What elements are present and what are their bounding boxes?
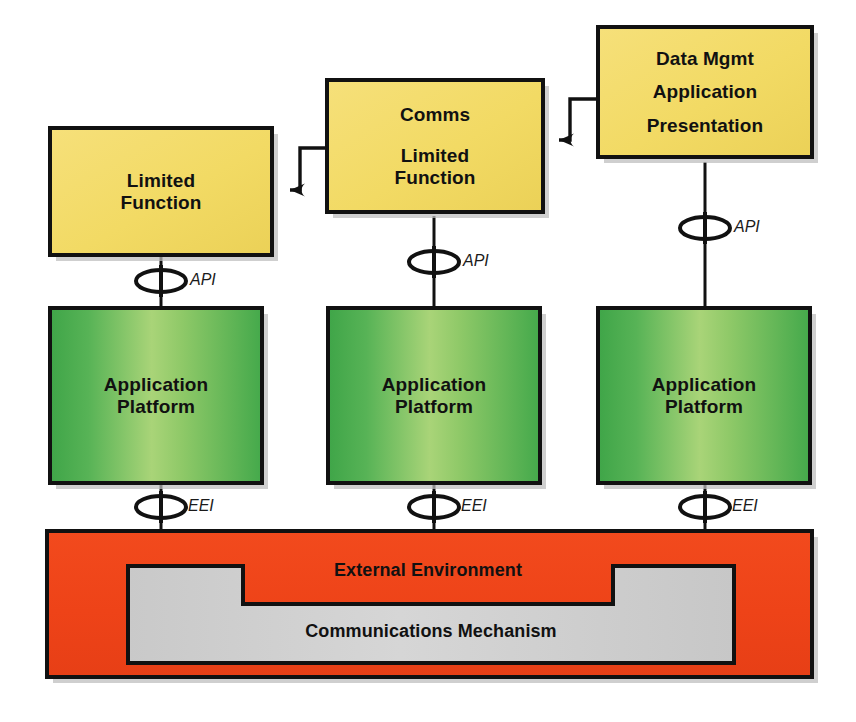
box-comms-limited-function[interactable]	[327, 80, 543, 212]
eei-interface-symbols	[136, 491, 730, 523]
box-application-platform-right[interactable]	[598, 308, 810, 483]
api-symbol-left[interactable]	[136, 265, 186, 297]
eei-symbol-left[interactable]	[136, 491, 186, 523]
api-symbol-center[interactable]	[409, 246, 459, 278]
box-application-platform-left[interactable]	[50, 308, 262, 483]
arrow-comms-to-limited-function	[290, 148, 327, 190]
eei-symbol-right[interactable]	[680, 491, 730, 523]
api-symbol-right[interactable]	[680, 212, 730, 244]
box-data-mgmt-application-presentation[interactable]	[598, 27, 812, 157]
diagram-canvas: Limited Function Comms Limited Function …	[0, 0, 856, 722]
application-platform-boxes	[50, 308, 810, 483]
eei-symbol-center[interactable]	[409, 491, 459, 523]
box-limited-function-left[interactable]	[50, 128, 272, 255]
diagram-graphics-layer	[0, 0, 856, 722]
arrow-datamgmt-to-comms	[559, 99, 598, 140]
box-application-platform-center[interactable]	[328, 308, 540, 483]
